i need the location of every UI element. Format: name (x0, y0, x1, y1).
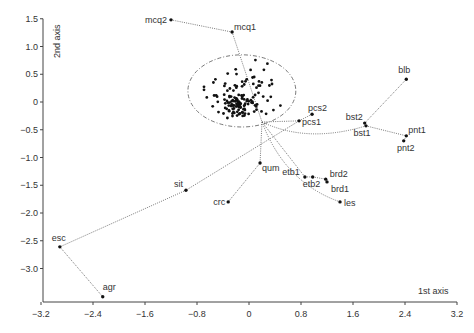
point-blb (405, 78, 408, 81)
cluster-point (244, 112, 247, 115)
x-tick-label: −0.8 (188, 309, 206, 319)
point-label-sit: sit (174, 179, 183, 189)
cluster-point (224, 82, 227, 85)
cluster-point (255, 105, 258, 108)
cluster-point (234, 68, 237, 71)
connection-line (60, 190, 186, 247)
cluster-point (233, 112, 236, 115)
y-tick-label: 0.5 (25, 69, 38, 79)
point-les (338, 200, 341, 203)
point-label-qum: qum (262, 163, 280, 173)
cluster-point (244, 80, 247, 83)
cluster-point (228, 96, 231, 99)
cluster-point (226, 100, 229, 103)
cluster-point (212, 81, 215, 84)
point-brd1 (325, 180, 328, 183)
cluster-point (239, 103, 242, 106)
point-sit (184, 189, 187, 192)
cluster-point (241, 80, 244, 83)
point-label-etb2: etb2 (303, 179, 321, 189)
cluster-point (252, 83, 255, 86)
cluster-point (216, 100, 219, 103)
cluster-point (231, 99, 234, 102)
cluster-point (205, 96, 208, 99)
cluster-point (253, 110, 256, 113)
connection-line (365, 79, 407, 123)
point-label-esc: esc (52, 233, 67, 243)
connection-line (262, 122, 340, 202)
point-label-mcq1: mcq1 (234, 22, 256, 32)
cluster-point (241, 115, 244, 118)
cluster-point (231, 107, 234, 110)
cluster-point (224, 107, 227, 110)
y-tick-label: −0.5 (20, 125, 38, 135)
cluster-point (247, 103, 250, 106)
cluster-point (243, 83, 246, 86)
cluster-point (240, 94, 243, 97)
cluster-point (254, 94, 257, 97)
cluster-point (251, 100, 254, 103)
y-tick-label: −1.5 (20, 180, 38, 190)
point-label-etb1: etb1 (282, 167, 300, 177)
cluster-point (244, 102, 247, 105)
cluster-point (223, 98, 226, 101)
point-label-pnt1: pnt1 (408, 125, 426, 135)
cluster-point (237, 94, 240, 97)
scatter-chart: −3.2−2.4−1.6−0.800.81.62.43.21.51.00.50−… (0, 0, 474, 333)
cluster-point (255, 108, 258, 111)
y-tick-label: −2.5 (20, 236, 38, 246)
cluster-point (262, 95, 265, 98)
x-tick-label: 0.8 (295, 309, 308, 319)
cluster-point (271, 83, 274, 86)
cluster-point (223, 93, 226, 96)
cluster-point (238, 100, 241, 103)
cluster-point (213, 94, 216, 97)
y-tick-label: −2.0 (20, 208, 38, 218)
point-label-les: les (344, 198, 356, 208)
cluster-point (253, 76, 256, 79)
point-pcs1 (297, 119, 300, 122)
point-crc (227, 200, 230, 203)
cluster-point (246, 98, 249, 101)
cluster-point (243, 107, 246, 110)
point-agr (101, 295, 104, 298)
cluster-point (235, 73, 238, 76)
labeled-points: mcq2mcq1blbbst2bst1pcs2pcs1pnt1pnt2qumet… (52, 15, 426, 299)
connection-line (171, 20, 232, 32)
cluster-point (239, 106, 242, 109)
cluster-point (252, 96, 255, 99)
connection-line (228, 163, 260, 202)
cluster-point (216, 95, 219, 98)
point-esc (58, 245, 61, 248)
cluster-point (232, 89, 235, 92)
x-tick-label: −3.2 (32, 309, 50, 319)
x-tick-label: 0 (246, 309, 251, 319)
cluster-point (227, 104, 230, 107)
cluster-point (236, 114, 239, 117)
x-tick-label: 3.2 (451, 309, 464, 319)
cluster-point (260, 110, 263, 113)
x-tick-label: 2.4 (399, 309, 412, 319)
cluster-point (257, 91, 260, 94)
cluster-point (203, 85, 206, 88)
cluster-point (272, 109, 275, 112)
cluster-point (222, 112, 225, 115)
point-label-crc: crc (213, 197, 225, 207)
cluster-point (255, 86, 258, 89)
connection-line (232, 32, 262, 122)
cluster-point (243, 98, 246, 101)
cluster-point (229, 87, 232, 90)
cluster-point (257, 84, 260, 87)
cluster-point (269, 95, 272, 98)
y-tick-label: 1.0 (25, 42, 38, 52)
cluster-point (247, 113, 250, 116)
axes: −3.2−2.4−1.6−0.800.81.62.43.21.51.00.50−… (20, 14, 463, 319)
cluster-point (231, 103, 234, 106)
point-label-brd2: brd2 (330, 169, 348, 179)
point-cluster (203, 59, 282, 120)
connection-line (262, 121, 299, 122)
x-tick-label: 1.6 (347, 309, 360, 319)
connection-line (60, 247, 103, 297)
point-label-bst2: bst2 (346, 112, 363, 122)
point-label-bst1: bst1 (353, 128, 370, 138)
